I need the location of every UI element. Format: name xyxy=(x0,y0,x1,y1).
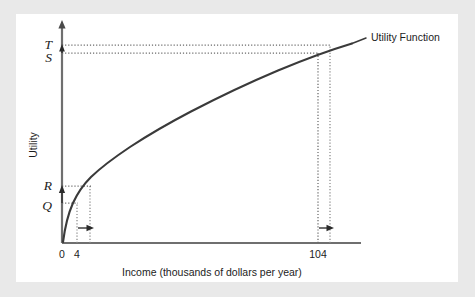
figure-root: T S R Q 0 4 104 Income (thousands of dol… xyxy=(0,0,475,297)
y-label-S: S xyxy=(45,50,52,65)
utility-delta-ST-head xyxy=(59,44,65,52)
utility-function-label: Utility Function xyxy=(371,31,440,43)
x-tick-label-4: 4 xyxy=(74,248,80,260)
high-income-guides xyxy=(62,45,331,243)
low-income-delta-arrow xyxy=(78,225,94,231)
utility-curve xyxy=(63,44,352,243)
x-tick-label-104: 104 xyxy=(309,248,327,260)
y-axis-arrowhead xyxy=(58,20,65,29)
y-axis-title: Utility xyxy=(27,131,39,157)
axes-group xyxy=(58,20,361,243)
chart-panel: T S R Q 0 4 104 Income (thousands of dol… xyxy=(16,14,458,282)
utility-function-chart: T S R Q 0 4 104 Income (thousands of dol… xyxy=(16,14,458,282)
utility-delta-QR-arrow xyxy=(59,185,65,203)
utility-delta-ST-arrow xyxy=(59,44,65,53)
x-axis-title: Income (thousands of dollars per year) xyxy=(122,266,302,278)
y-label-Q: Q xyxy=(42,198,52,213)
high-income-delta-arrow xyxy=(319,225,334,231)
x-tick-label-0: 0 xyxy=(59,248,65,260)
utility-function-leader-line xyxy=(352,38,366,44)
utility-delta-QR-head xyxy=(59,185,65,193)
y-label-R: R xyxy=(43,178,53,193)
